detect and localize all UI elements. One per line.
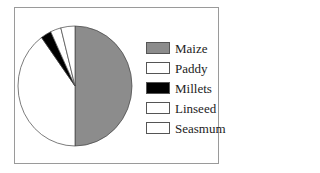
legend-item-seasmum: Seasmum — [146, 118, 226, 138]
legend-label: Paddy — [175, 62, 208, 75]
legend-item-millets: Millets — [146, 78, 226, 98]
legend-item-linseed: Linseed — [146, 98, 226, 118]
pie-slice-maize — [75, 26, 132, 146]
legend-swatch — [146, 82, 170, 94]
legend-label: Millets — [175, 82, 212, 95]
legend-item-paddy: Paddy — [146, 58, 226, 78]
legend-swatch — [146, 62, 170, 74]
legend-label: Linseed — [175, 102, 216, 115]
legend-swatch — [146, 102, 170, 114]
legend-swatch — [146, 122, 170, 134]
legend-item-maize: Maize — [146, 38, 226, 58]
legend: Maize Paddy Millets Linseed Seasmum — [146, 38, 226, 138]
legend-label: Maize — [175, 42, 207, 55]
legend-swatch — [146, 42, 170, 54]
legend-label: Seasmum — [175, 122, 226, 135]
